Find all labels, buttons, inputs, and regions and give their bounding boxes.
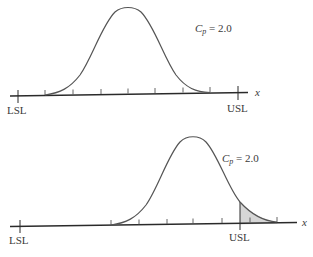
bottom-x-axis-label: x	[301, 216, 307, 228]
bottom-cp-annotation: Cp = 2.0	[222, 152, 259, 166]
top-x-axis-label: x	[254, 86, 260, 98]
process-capability-diagram: LSL USL x Cp = 2.0 LSL USL x	[0, 0, 313, 257]
bottom-x-axis	[10, 223, 297, 227]
top-normal-curve	[45, 8, 210, 96]
top-panel: LSL USL x Cp = 2.0	[7, 8, 260, 117]
bottom-normal-curve	[111, 137, 277, 225]
bottom-panel: LSL USL x Cp = 2.0	[9, 137, 307, 246]
top-lsl-label: LSL	[7, 104, 27, 116]
bottom-lsl-label: LSL	[9, 234, 29, 246]
bottom-usl-label: USL	[229, 231, 250, 243]
top-cp-annotation: Cp = 2.0	[195, 22, 232, 36]
top-usl-label: USL	[227, 102, 248, 114]
